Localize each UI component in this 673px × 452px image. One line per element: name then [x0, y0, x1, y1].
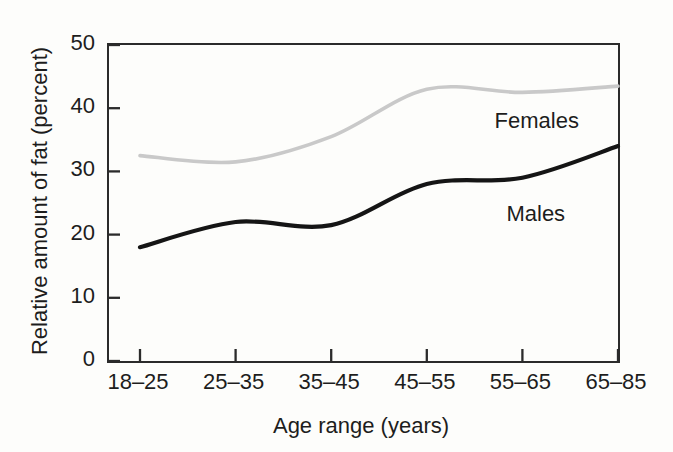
- y-tick-label: 50: [0, 32, 95, 54]
- y-tick-label: 20: [0, 222, 95, 244]
- x-tick-label: 35–45: [299, 371, 360, 393]
- series-label-males: Males: [506, 201, 565, 227]
- x-tick-label: 55–65: [490, 371, 551, 393]
- x-tick-label: 65–85: [585, 371, 646, 393]
- x-tick-label: 18–25: [107, 371, 168, 393]
- series-label-females: Females: [495, 108, 579, 134]
- y-axis-title: Relative amount of fat (percent): [27, 47, 53, 355]
- x-tick-label: 25–35: [203, 371, 264, 393]
- x-tick-label: 45–55: [394, 371, 455, 393]
- y-tick-label: 0: [0, 348, 95, 370]
- x-axis-title: Age range (years): [273, 413, 449, 439]
- y-tick-label: 10: [0, 285, 95, 307]
- y-tick-label: 30: [0, 158, 95, 180]
- plot-area: Females Males: [107, 43, 620, 363]
- y-tick-label: 40: [0, 95, 95, 117]
- fat-by-age-chart: Relative amount of fat (percent) Age ran…: [0, 0, 673, 452]
